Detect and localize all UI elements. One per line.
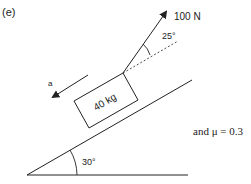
applied-force-arrow (123, 12, 166, 73)
incline-angle-label: 30° (82, 157, 96, 167)
mass-block: 40 kg (74, 73, 138, 128)
force-angle-arc (143, 44, 150, 55)
incline-angle-arc (70, 150, 77, 175)
friction-coefficient-text: and μ = 0.3 (193, 125, 243, 137)
incline-reference-dashed (123, 41, 178, 73)
inclined-plane-diagram: (e) 30° 40 kg 100 N 25° a and μ = 0.3 (0, 0, 251, 184)
acceleration-arrow (53, 75, 88, 97)
force-angle-label: 25° (162, 31, 176, 41)
force-label: 100 N (174, 11, 201, 22)
part-label: (e) (2, 6, 15, 18)
acceleration-label: a (48, 79, 53, 88)
